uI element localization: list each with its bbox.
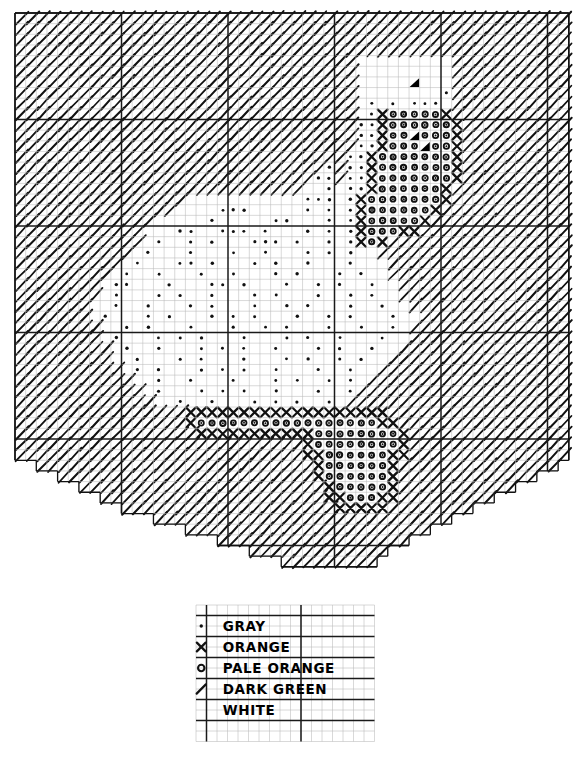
pale-orange-circle-center: [371, 199, 373, 201]
gray-dot-symbol: [327, 240, 330, 243]
orange-cross-symbol: [431, 205, 441, 215]
gray-dot-symbol: [317, 347, 320, 350]
gray-dot-symbol: [391, 315, 394, 318]
pale-orange-circle-center: [403, 177, 405, 179]
gray-dot-symbol: [200, 390, 203, 393]
gray-dot-symbol: [157, 240, 160, 243]
dark-green-slash-symbol: [250, 182, 263, 195]
dark-green-slash-symbol: [59, 459, 71, 472]
orange-cross-symbol: [378, 418, 388, 428]
pale-orange-circle-center: [381, 454, 383, 456]
gray-dot-symbol: [221, 283, 224, 286]
gray-dot-symbol: [179, 358, 182, 361]
gray-dot-symbol: [189, 262, 192, 265]
pale-orange-circle-center: [446, 177, 448, 179]
orange-cross-symbol: [250, 429, 260, 438]
gray-dot-symbol: [189, 251, 192, 254]
legend-label: WHITE: [223, 702, 276, 718]
gray-dot-symbol: [157, 294, 160, 297]
dark-green-slash-symbol: [420, 43, 433, 56]
gray-dot-symbol: [210, 400, 213, 403]
pale-orange-circle-center: [349, 486, 351, 488]
pale-orange-circle-center: [328, 443, 330, 445]
gray-dot-symbol: [360, 123, 363, 126]
pale-orange-circle-center: [434, 188, 436, 190]
gray-dot-symbol: [125, 326, 128, 329]
gray-dot-symbol: [210, 283, 213, 286]
gray-dot-symbol: [359, 272, 362, 275]
pale-orange-circle-center: [392, 156, 394, 158]
pale-orange-circle-center: [307, 422, 309, 424]
pale-orange-circle-center: [339, 486, 341, 488]
orange-cross-symbol: [346, 408, 356, 418]
orange-cross-symbol: [452, 131, 462, 141]
gray-dot-symbol: [232, 326, 235, 329]
dark-green-slash-symbol: [335, 161, 347, 174]
pale-orange-circle-center: [339, 443, 341, 445]
dark-green-slash-symbol: [16, 395, 28, 408]
orange-cross-symbol: [292, 407, 302, 417]
dark-green-slash-symbol: [335, 150, 348, 163]
gray-dot-symbol: [115, 336, 118, 339]
orange-cross-symbol: [239, 407, 249, 417]
orange-cross-symbol: [229, 429, 239, 439]
pale-orange-circle-center: [435, 156, 437, 158]
dark-green-slash-symbol: [282, 182, 294, 195]
orange-cross-symbol: [388, 493, 398, 503]
pale-orange-circle-center: [392, 209, 394, 211]
pale-orange-circle-center: [392, 113, 394, 115]
dark-green-slash-symbol: [271, 182, 283, 195]
gray-dot-symbol: [348, 166, 351, 169]
dark-green-slash-symbol: [378, 395, 390, 408]
gray-dot-symbol: [338, 357, 341, 360]
gray-dot-symbol: [136, 368, 139, 371]
pale-orange-circle-center: [371, 433, 373, 435]
gray-dot-symbol: [317, 283, 320, 286]
gray-dot-symbol: [157, 337, 160, 340]
orange-cross-symbol: [378, 237, 387, 246]
dark-green-slash-symbol: [357, 555, 370, 567]
gray-dot-symbol: [306, 251, 309, 254]
pale-orange-circle-center: [232, 422, 234, 424]
pale-orange-circle-center: [445, 145, 447, 147]
legend-row: GRAY: [200, 618, 266, 634]
pale-orange-circle-center: [371, 241, 373, 243]
gray-dot-symbol: [210, 294, 213, 297]
gray-dot-symbol: [328, 209, 331, 212]
pale-orange-circle-center: [424, 124, 426, 126]
orange-cross-symbol: [282, 429, 292, 438]
orange-cross-symbol: [452, 152, 461, 162]
pale-orange-circle-center: [211, 422, 213, 424]
gray-dot-symbol: [221, 230, 224, 233]
gray-dot-symbol: [317, 390, 320, 393]
gray-dot-symbol: [296, 379, 299, 382]
gray-dot-symbol: [349, 251, 352, 254]
pale-orange-circle-center: [424, 209, 426, 211]
gray-dot-symbol: [242, 283, 245, 286]
gray-dot-symbol: [391, 102, 394, 105]
pale-orange-circle-center: [328, 475, 330, 477]
dark-green-slash-symbol: [399, 43, 412, 56]
gray-dot-symbol: [157, 347, 160, 350]
gray-dot-symbol: [222, 209, 225, 212]
pale-orange-circle-center: [381, 230, 383, 232]
pale-orange-circle-center: [360, 497, 362, 499]
orange-cross-symbol: [356, 237, 366, 247]
gray-dot-symbol: [349, 155, 352, 158]
pale-orange-circle-center: [392, 198, 394, 200]
pale-orange-circle-center: [424, 156, 426, 158]
pattern-chart-page: GRAYORANGEPALE ORANGEDARK GREENWHITE: [0, 0, 583, 764]
gray-dot-symbol: [328, 219, 331, 222]
dark-green-slash-symbol: [389, 256, 401, 269]
orange-cross-symbol: [452, 142, 462, 151]
gray-dot-symbol: [104, 315, 107, 318]
gray-dot-symbol: [147, 304, 150, 307]
gray-dot-symbol: [179, 400, 182, 403]
dark-green-slash-symbol: [80, 480, 92, 493]
gray-dot-symbol: [242, 347, 245, 350]
pale-orange-circle-center: [296, 422, 298, 424]
pale-orange-circle-center: [381, 177, 383, 179]
dark-green-slash-symbol: [399, 469, 411, 482]
gray-dot-symbol: [232, 273, 235, 276]
orange-cross-symbol: [356, 195, 366, 204]
